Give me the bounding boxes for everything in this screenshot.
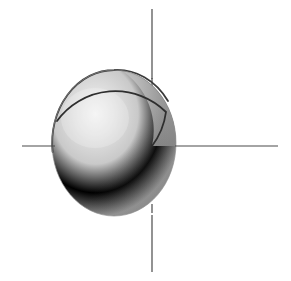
ellipsoid-figure xyxy=(0,0,291,281)
ellipsoid-body xyxy=(52,60,182,216)
figure-canvas xyxy=(0,0,291,281)
specular-highlight xyxy=(61,88,129,148)
